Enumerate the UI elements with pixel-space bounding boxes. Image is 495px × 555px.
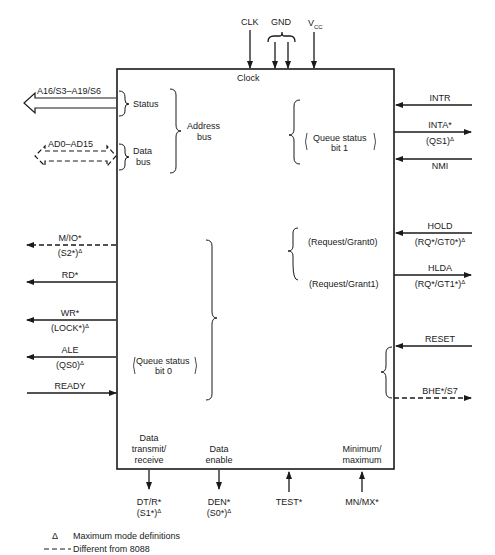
queue-status-bit0-label-2: bit 0 xyxy=(155,366,172,376)
dtr-desc-2: transmit/ xyxy=(124,444,174,454)
pin-reset-label: RESET xyxy=(410,334,470,344)
pin-hold-label: HOLD xyxy=(410,221,470,231)
pin-inta-max-label: (QS1)Δ xyxy=(410,136,470,146)
pin-dtr-max-label: (S1*)Δ xyxy=(124,508,174,518)
request-grant0-label: (Request/Grant0) xyxy=(308,237,378,247)
address-bus-label-2: bus xyxy=(197,132,212,142)
den-desc-2: enable xyxy=(194,455,244,465)
legend-max-mode-label: Maximum mode definitions xyxy=(73,531,180,541)
pin-nmi-label: NMI xyxy=(410,161,470,171)
dtr-desc-1: Data xyxy=(124,433,174,443)
pin-intr-label: INTR xyxy=(410,93,470,103)
pin-den-max-label: (S0*)Δ xyxy=(194,508,244,518)
pin-mnmx-label: MN/MX* xyxy=(332,497,392,507)
pin-rd-label: RD* xyxy=(40,270,100,280)
pin-inta-label: INTA* xyxy=(410,120,470,130)
clock-label: Clock xyxy=(237,73,260,83)
queue-status-bit1-label-1: Queue status xyxy=(313,133,367,143)
pin-test-label: TEST* xyxy=(264,497,314,507)
pin-clk-label: CLK xyxy=(241,17,259,27)
pin-gnd-label: GND xyxy=(271,17,291,27)
request-grant1-label: (Request/Grant1) xyxy=(309,279,379,289)
chip-body xyxy=(117,69,394,469)
pin-vcc-label: VCC xyxy=(308,18,323,32)
pin-hlda-label: HLDA xyxy=(410,263,470,273)
den-desc-1: Data xyxy=(194,444,244,454)
pin-dtr-label: DT/R* xyxy=(124,497,174,507)
pin-den-label: DEN* xyxy=(194,497,244,507)
pin-hold-max-label: (RQ*/GT0*)Δ xyxy=(400,237,480,247)
pin-mio-max-label: (S2*)Δ xyxy=(40,248,100,258)
pin-bhe-label: BHE*/S7 xyxy=(405,386,475,396)
mnmx-desc-2: maximum xyxy=(332,455,392,465)
pin-ale-label: ALE xyxy=(40,345,100,355)
queue-status-bit1-label-2: bit 1 xyxy=(331,143,348,153)
pin-mio-label: M/IO* xyxy=(40,233,100,243)
data-bus-label-2: bus xyxy=(136,157,151,167)
pin-a16-label: A16/S3–A19/S6 xyxy=(37,86,101,96)
queue-status-bit0-label-1: Queue status xyxy=(136,356,190,366)
legend-different-label: Different from 8088 xyxy=(73,544,150,554)
pin-wr-max-label: (LOCK*)Δ xyxy=(40,323,100,333)
legend-delta-icon: Δ xyxy=(52,531,58,541)
pin-ad-label: AD0–AD15 xyxy=(48,139,93,149)
status-label: Status xyxy=(133,99,159,109)
data-bus-label-1: Data xyxy=(133,146,152,156)
pin-hlda-max-label: (RQ*/GT1*)Δ xyxy=(400,279,480,289)
pin-wr-label: WR* xyxy=(40,308,100,318)
pin-ready-label: READY xyxy=(40,381,100,391)
mnmx-desc-1: Minimum/ xyxy=(332,444,392,454)
dtr-desc-3: receive xyxy=(124,455,174,465)
pin-ale-max-label: (QS0)Δ xyxy=(40,360,100,370)
address-bus-label-1: Address xyxy=(187,121,220,131)
